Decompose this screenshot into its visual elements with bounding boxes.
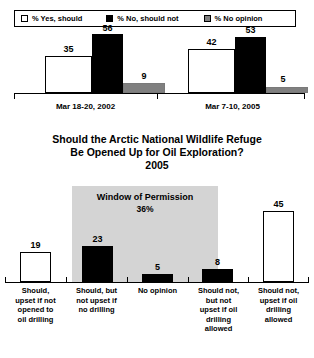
poll-chart-figure: % Yes, should % No, should not % No opin… (0, 0, 314, 358)
x-axis-category-label-2: No opinion (127, 286, 188, 296)
bar-yes-should-2005 (188, 49, 235, 93)
category-line: Should, (5, 286, 66, 296)
category-line: Should, but (66, 286, 127, 296)
category-line: oil drilling (5, 315, 66, 325)
chart-title-line-1: Should the Arctic National Wildlife Refu… (0, 133, 314, 146)
bar-value-label: 9 (123, 71, 165, 81)
axis-tick (66, 277, 67, 282)
permission-bar-chart: Window of Permission 36% 19 23 5 8 45 Sh… (0, 180, 314, 358)
chart-title: Should the Arctic National Wildlife Refu… (0, 133, 314, 172)
legend-item-no-should-not: % No, should not (106, 14, 178, 23)
axis-tick (14, 94, 15, 99)
category-line: drilling (248, 305, 309, 315)
axis-tick (127, 277, 128, 282)
bar-value-label: 5 (142, 262, 173, 272)
legend-swatch-icon (106, 15, 113, 22)
legend-swatch-icon (204, 15, 211, 22)
bar-value-label: 42 (188, 37, 235, 47)
bar-should-not-but-not-upset (202, 269, 233, 282)
x-axis-category-label: Mar 18-20, 2002 (14, 102, 157, 112)
bar-value-label: 56 (92, 23, 123, 33)
axis-tick (157, 94, 158, 99)
bar-value-label: 19 (20, 240, 51, 250)
x-axis-line (14, 93, 305, 94)
x-axis-category-label: Mar 7-10, 2005 (161, 102, 304, 112)
legend-item-yes-should: % Yes, should (21, 14, 82, 23)
category-line: no drilling (66, 305, 127, 315)
axis-tick (5, 277, 6, 282)
x-axis-line (5, 282, 309, 283)
bar-no-should-not-2005 (235, 37, 266, 93)
category-line: upset if oil (188, 305, 249, 315)
bar-value-label: 53 (235, 25, 266, 35)
bar-value-label: 23 (82, 234, 113, 244)
bar-no-should-not-2002 (92, 34, 123, 93)
bar-no-opinion (142, 274, 173, 282)
category-line: upset if not (5, 296, 66, 306)
legend-item-no-opinion: % No opinion (204, 14, 263, 23)
bar-value-label: 5 (262, 74, 304, 84)
category-line: but not (188, 296, 249, 306)
trend-bar-chart: 35 56 9 42 53 5 Mar 18-20, 2002 Mar 7-10… (0, 33, 314, 115)
category-line: No opinion (127, 286, 188, 296)
bar-no-opinion-2002 (123, 83, 165, 93)
bar-should-upset-if-not-opened (20, 252, 51, 282)
chart-title-year: 2005 (0, 159, 314, 172)
x-axis-category-label-4: Should not, upset if oil drilling allowe… (248, 286, 309, 324)
category-line: drilling (188, 315, 249, 325)
bar-should-but-not-upset (82, 246, 113, 282)
x-axis-category-label-1: Should, but not upset if no drilling (66, 286, 127, 315)
legend-label: % No, should not (117, 14, 178, 23)
axis-tick (304, 94, 305, 99)
axis-tick (308, 277, 309, 282)
category-line: Should not, (188, 286, 249, 296)
bar-should-not-upset (263, 211, 294, 282)
category-line: not upset if (66, 296, 127, 306)
legend-swatch-icon (21, 15, 28, 22)
bar-value-label: 35 (45, 44, 92, 54)
category-line: Should not, (248, 286, 309, 296)
window-of-permission-percent: 36% (72, 203, 218, 215)
category-line: opened to (5, 305, 66, 315)
chart-title-line-2: Be Opened Up for Oil Exploration? (0, 146, 314, 159)
bar-yes-should-2002 (45, 56, 92, 93)
x-axis-category-label-3: Should not, but not upset if oil drillin… (188, 286, 249, 334)
legend-label: % Yes, should (32, 14, 82, 23)
legend-label: % No opinion (215, 14, 263, 23)
window-of-permission-label: Window of Permission (72, 191, 218, 203)
bar-value-label: 8 (202, 257, 233, 267)
axis-tick (188, 277, 189, 282)
bar-value-label: 45 (263, 199, 294, 209)
category-line: allowed (188, 324, 249, 334)
category-line: upset if oil (248, 296, 309, 306)
x-axis-category-label-0: Should, upset if not opened to oil drill… (5, 286, 66, 324)
axis-tick (248, 277, 249, 282)
category-line: allowed (248, 315, 309, 325)
